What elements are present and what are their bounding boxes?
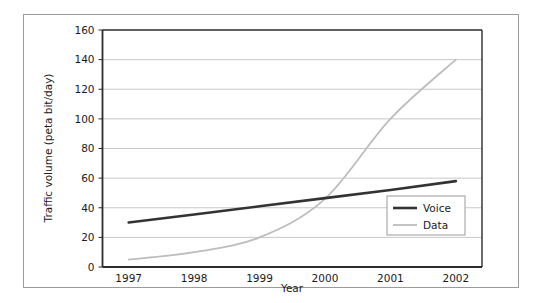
x-axis-title: Year [280,282,304,294]
y-tick-label: 160 [74,24,94,36]
y-tick-label: 40 [81,202,94,214]
chart-figure: 020406080100120140160 199719981999200020… [0,0,533,303]
y-axis-title: Traffic volume (peta bit/day) [42,74,54,224]
y-tick-label: 80 [81,142,94,154]
y-tick-label: 20 [81,231,94,243]
x-tick-label: 2001 [377,272,404,284]
legend-label-data: Data [423,219,448,231]
y-tick-label: 0 [88,261,95,273]
x-tick-label: 1999 [246,272,273,284]
y-tick-labels: 020406080100120140160 [74,24,94,273]
legend-label-voice: Voice [423,202,451,214]
y-tick-label: 60 [81,172,94,184]
x-tick-label: 1997 [115,272,142,284]
y-tick-label: 140 [74,53,94,65]
line-chart: 020406080100120140160 199719981999200020… [0,0,533,303]
x-tick-label: 2000 [312,272,339,284]
y-tick-label: 120 [74,83,94,95]
x-tick-label: 2002 [442,272,469,284]
chart-legend: Voice Data [387,196,465,235]
x-tick-label: 1998 [181,272,208,284]
y-tick-label: 100 [74,113,94,125]
